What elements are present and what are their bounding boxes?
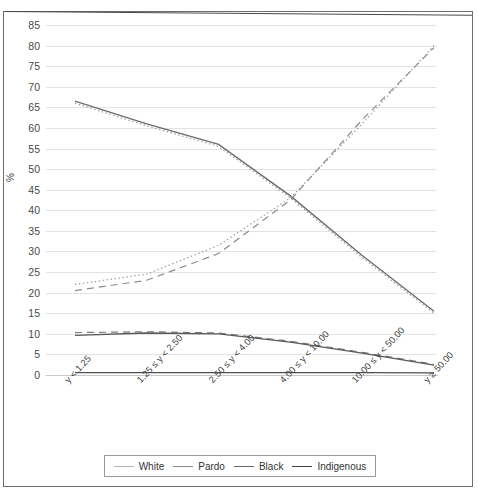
chart-legend: WhitePardoBlackIndigenous <box>104 455 376 477</box>
y-axis-tick-label: 5 <box>6 349 40 360</box>
y-axis-tick-label: 15 <box>6 308 40 319</box>
legend-swatch <box>173 466 193 467</box>
y-axis-tick-label: 0 <box>6 370 40 381</box>
y-axis-tick-label: 65 <box>6 102 40 113</box>
y-axis-tick-label: 55 <box>6 144 40 155</box>
series-line <box>75 101 434 311</box>
legend-label: Indigenous <box>317 461 366 472</box>
series-line <box>75 48 434 291</box>
series-line <box>75 103 434 313</box>
y-axis-tick-label: 35 <box>6 226 40 237</box>
y-axis-tick-label: 20 <box>6 288 40 299</box>
y-axis-tick-label: 60 <box>6 123 40 134</box>
y-axis-tick-label: 50 <box>6 164 40 175</box>
legend-swatch <box>114 466 134 467</box>
legend-label: Black <box>259 461 283 472</box>
series-lines <box>46 25 436 375</box>
chart-figure: % 0510152025303540455055606570758085 y <… <box>0 0 478 493</box>
y-axis-tick-label: 40 <box>6 205 40 216</box>
y-axis-tick-label: 25 <box>6 267 40 278</box>
legend-item[interactable]: Indigenous <box>292 461 366 472</box>
y-axis-tick-label: 80 <box>6 41 40 52</box>
legend-swatch <box>292 466 312 467</box>
y-axis-tick-label: 70 <box>6 82 40 93</box>
legend-item[interactable]: White <box>114 461 165 472</box>
y-axis-tick-labels: 0510152025303540455055606570758085 <box>6 25 40 375</box>
y-axis-tick-label: 30 <box>6 246 40 257</box>
plot-area <box>46 25 436 375</box>
y-axis-tick-label: 75 <box>6 61 40 72</box>
legend-label: White <box>139 461 165 472</box>
axis-baseline <box>46 375 438 376</box>
legend-item[interactable]: Pardo <box>173 461 225 472</box>
y-axis-tick-label: 45 <box>6 185 40 196</box>
series-line <box>75 46 434 285</box>
y-axis-tick-label: 10 <box>6 329 40 340</box>
legend-item[interactable]: Black <box>234 461 283 472</box>
legend-swatch <box>234 466 254 467</box>
x-axis-tick-labels: y < 1.251.25 ≤ y < 2.502.50 ≤ y < 4.004.… <box>46 378 446 448</box>
y-axis-tick-label: 85 <box>6 20 40 31</box>
legend-label: Pardo <box>198 461 225 472</box>
